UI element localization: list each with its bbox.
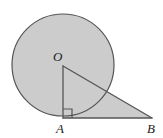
shaded-region-group bbox=[12, 14, 152, 118]
geometry-figure: O A B bbox=[0, 0, 163, 138]
vertex-label-o: O bbox=[53, 50, 62, 63]
geometry-canvas bbox=[0, 0, 163, 138]
vertex-label-b: B bbox=[147, 122, 155, 135]
vertex-label-a: A bbox=[56, 122, 64, 135]
